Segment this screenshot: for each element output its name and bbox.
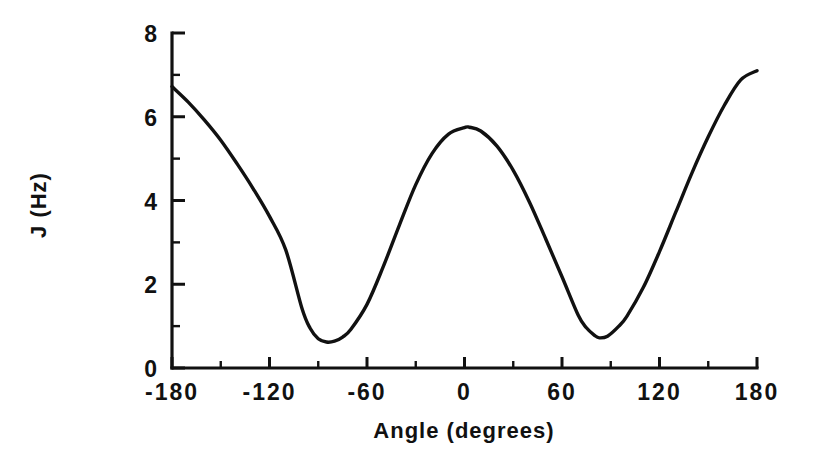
x-tick-label: 180 xyxy=(735,379,779,405)
x-tick-label: 0 xyxy=(457,379,472,405)
x-tick-label: -180 xyxy=(145,379,199,405)
x-tick-label: 120 xyxy=(637,379,681,405)
x-axis-ticks xyxy=(172,357,757,368)
y-axis-ticks xyxy=(172,33,185,368)
y-tick-label: 2 xyxy=(144,272,159,298)
y-tick-label: 6 xyxy=(144,105,159,131)
y-tick-label: 4 xyxy=(144,189,159,215)
y-tick-label: 8 xyxy=(144,21,159,47)
x-axis-title: Angle (degrees) xyxy=(373,418,554,443)
x-axis-tick-labels: -180-120-60060120180 xyxy=(145,379,779,405)
y-axis-tick-labels: 02468 xyxy=(144,21,159,382)
chart-figure: -180-120-60060120180 02468 Angle (degree… xyxy=(0,0,819,468)
x-tick-label: -120 xyxy=(242,379,296,405)
y-tick-label: 0 xyxy=(144,356,159,382)
data-series-line xyxy=(172,71,757,343)
y-axis-title: J (Hz) xyxy=(26,172,51,238)
x-tick-label: 60 xyxy=(547,379,577,405)
karplus-curve-plot: -180-120-60060120180 02468 Angle (degree… xyxy=(0,0,819,468)
x-tick-label: -60 xyxy=(347,379,386,405)
